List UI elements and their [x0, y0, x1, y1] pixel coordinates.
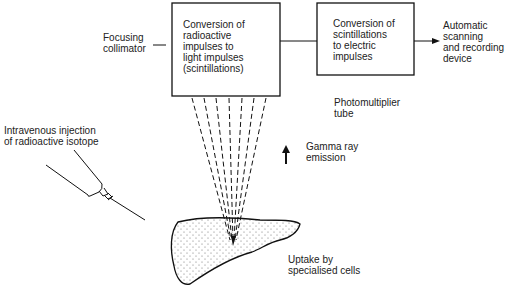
syringe-icon — [46, 150, 145, 220]
injection-label: Intravenous injection of radioactive iso… — [4, 125, 99, 147]
arrow-up-icon — [282, 145, 290, 153]
liver-shape — [171, 218, 300, 285]
output-device-label: Automatic scanning and recording device — [443, 20, 504, 64]
gamma-label: Gamma ray emission — [306, 141, 358, 163]
photomultiplier-box-text: Conversion of scintillations to electric… — [333, 18, 395, 62]
arrowhead-icon — [432, 38, 440, 44]
collimator-label: Focusing collimator — [103, 32, 146, 54]
photomultiplier-label: Photomultiplier tube — [334, 97, 400, 119]
scintillator-box-text: Conversion of radioactive impulses to li… — [183, 19, 245, 74]
uptake-label: Uptake by specialised cells — [288, 254, 360, 276]
diagram-canvas — [0, 0, 506, 295]
